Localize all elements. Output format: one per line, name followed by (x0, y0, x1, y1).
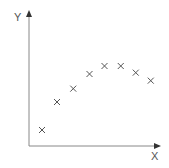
data-point-x-marker-icon (102, 63, 108, 69)
y-axis-arrow-icon (26, 10, 32, 17)
scatter-plot (0, 0, 169, 168)
data-point-x-marker-icon (54, 99, 60, 105)
x-axis-arrow-icon (154, 143, 161, 149)
y-axis-label: Y (14, 12, 21, 23)
data-point-x-marker-icon (87, 71, 93, 77)
x-axis-label: X (151, 151, 158, 162)
data-point-x-marker-icon (70, 86, 76, 92)
y-axis (26, 10, 32, 146)
data-point-x-marker-icon (118, 63, 124, 69)
x-axis (29, 143, 161, 149)
data-points (39, 63, 154, 133)
data-point-x-marker-icon (133, 70, 139, 76)
data-point-x-marker-icon (39, 127, 45, 133)
data-point-x-marker-icon (148, 78, 154, 84)
